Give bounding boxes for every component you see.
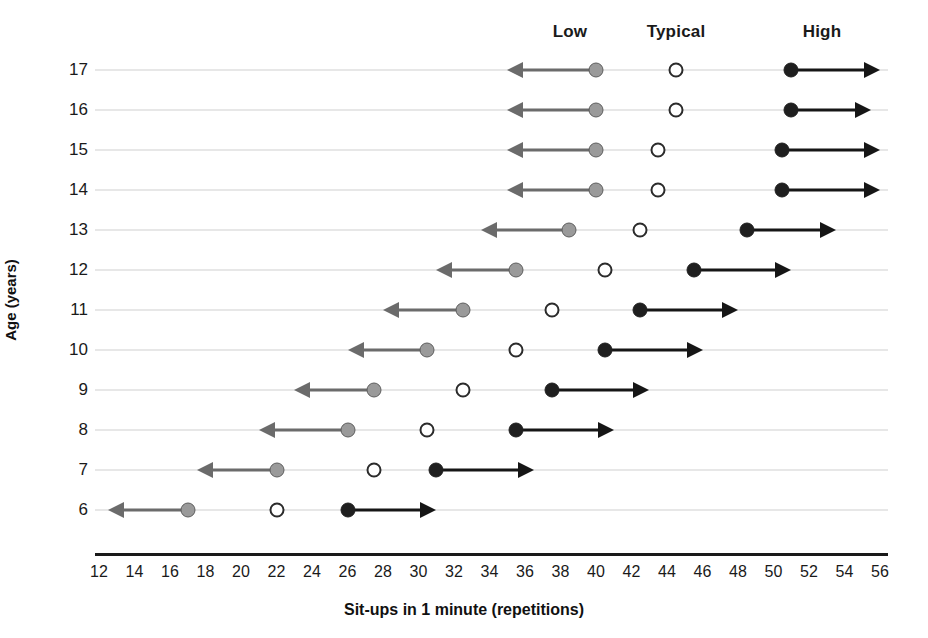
x-tick-label-16: 16 [161, 563, 179, 581]
high-arrow-shaft [747, 229, 822, 232]
low-arrow-shaft [211, 469, 277, 472]
high-arrow-head [518, 462, 534, 478]
x-tick-label-12: 12 [90, 563, 108, 581]
low-arrow-shaft [521, 149, 596, 152]
high-arrow-head [864, 182, 880, 198]
typical-marker-age-10 [509, 343, 524, 358]
x-tick-label-20: 20 [232, 563, 250, 581]
typical-marker-age-7 [367, 463, 382, 478]
high-arrow-shaft [640, 309, 724, 312]
row-gridline [95, 390, 888, 391]
column-header-typical: Typical [647, 22, 706, 42]
x-tick-label-52: 52 [800, 563, 818, 581]
typical-marker-age-6 [269, 503, 284, 518]
high-marker-age-12 [686, 263, 701, 278]
x-tick-label-22: 22 [268, 563, 286, 581]
low-arrow-head [436, 262, 452, 278]
x-tick-label-28: 28 [374, 563, 392, 581]
high-marker-age-7 [429, 463, 444, 478]
high-arrow-head [855, 102, 871, 118]
high-marker-age-14 [775, 183, 790, 198]
high-marker-age-16 [784, 103, 799, 118]
low-arrow-head [259, 422, 275, 438]
high-arrow-head [820, 222, 836, 238]
low-arrow-shaft [495, 229, 570, 232]
low-marker-age-14 [589, 183, 604, 198]
x-tick-label-14: 14 [126, 563, 144, 581]
high-arrow-head [864, 62, 880, 78]
low-marker-age-7 [269, 463, 284, 478]
column-header-low: Low [553, 22, 588, 42]
low-arrow-shaft [521, 189, 596, 192]
low-marker-age-17 [589, 63, 604, 78]
low-marker-age-13 [562, 223, 577, 238]
high-arrow-head [864, 142, 880, 158]
low-marker-age-11 [455, 303, 470, 318]
low-arrow-shaft [308, 389, 374, 392]
x-tick-label-54: 54 [836, 563, 854, 581]
high-marker-age-17 [784, 63, 799, 78]
row-gridline [95, 70, 888, 71]
low-arrow-head [507, 142, 523, 158]
low-arrow-head [507, 102, 523, 118]
low-marker-age-8 [340, 423, 355, 438]
low-marker-age-6 [180, 503, 195, 518]
high-arrow-head [775, 262, 791, 278]
plot-area [0, 0, 928, 638]
x-axis-title: Sit-ups in 1 minute (repetitions) [0, 601, 928, 619]
high-arrow-head [598, 422, 614, 438]
x-tick-label-30: 30 [410, 563, 428, 581]
high-arrow-head [687, 342, 703, 358]
low-arrow-head [348, 342, 364, 358]
x-axis-line [95, 553, 888, 556]
high-marker-age-10 [597, 343, 612, 358]
typical-marker-age-16 [668, 103, 683, 118]
x-tick-label-32: 32 [445, 563, 463, 581]
high-arrow-shaft [782, 149, 866, 152]
x-tick-label-42: 42 [623, 563, 641, 581]
low-arrow-shaft [450, 269, 516, 272]
typical-marker-age-12 [597, 263, 612, 278]
high-arrow-shaft [516, 429, 600, 432]
x-tick-label-26: 26 [339, 563, 357, 581]
row-gridline [95, 310, 888, 311]
x-tick-label-40: 40 [587, 563, 605, 581]
low-arrow-head [507, 182, 523, 198]
typical-marker-age-14 [651, 183, 666, 198]
typical-marker-age-15 [651, 143, 666, 158]
high-arrow-head [722, 302, 738, 318]
low-arrow-shaft [521, 109, 596, 112]
high-marker-age-15 [775, 143, 790, 158]
high-arrow-shaft [348, 509, 423, 512]
low-marker-age-15 [589, 143, 604, 158]
high-marker-age-9 [544, 383, 559, 398]
row-gridline [95, 350, 888, 351]
high-marker-age-13 [739, 223, 754, 238]
x-tick-label-50: 50 [765, 563, 783, 581]
high-arrow-shaft [791, 109, 857, 112]
low-arrow-head [481, 222, 497, 238]
low-arrow-head [507, 62, 523, 78]
low-marker-age-9 [367, 383, 382, 398]
row-gridline [95, 150, 888, 151]
high-marker-age-6 [340, 503, 355, 518]
x-tick-label-18: 18 [197, 563, 215, 581]
high-arrow-shaft [605, 349, 689, 352]
low-arrow-shaft [122, 509, 188, 512]
high-arrow-shaft [694, 269, 778, 272]
high-marker-age-8 [509, 423, 524, 438]
row-gridline [95, 510, 888, 511]
high-arrow-shaft [552, 389, 636, 392]
low-marker-age-12 [509, 263, 524, 278]
typical-marker-age-9 [455, 383, 470, 398]
low-marker-age-16 [589, 103, 604, 118]
row-gridline [95, 110, 888, 111]
x-tick-label-44: 44 [658, 563, 676, 581]
low-arrow-head [383, 302, 399, 318]
x-tick-label-46: 46 [694, 563, 712, 581]
sit-ups-age-chart: Age (years) 17161514131211109876 1214161… [0, 0, 928, 638]
high-arrow-shaft [436, 469, 520, 472]
high-arrow-head [633, 382, 649, 398]
low-arrow-shaft [273, 429, 348, 432]
typical-marker-age-11 [544, 303, 559, 318]
